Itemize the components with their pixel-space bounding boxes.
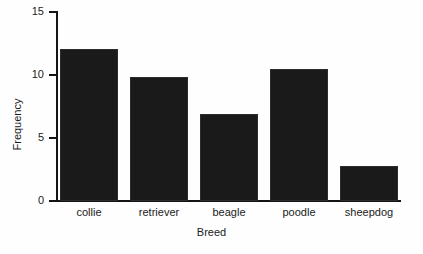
x-tick-label-beagle: beagle — [189, 206, 269, 219]
bar-chart-figure: Frequency 15 10 5 0 collie retriever bea… — [0, 0, 423, 254]
bar-beagle — [200, 114, 258, 201]
y-tick-label-15: 15 — [4, 6, 44, 17]
x-axis-title: Breed — [0, 226, 423, 239]
bar-sheepdog — [340, 166, 398, 201]
x-tick-label-poodle: poodle — [259, 206, 339, 219]
y-tick-label-10: 10 — [4, 69, 44, 80]
bar-poodle — [270, 69, 328, 201]
bar-retriever — [130, 77, 188, 201]
y-axis-title: Frequency — [11, 80, 24, 170]
x-tick-label-retriever: retriever — [119, 206, 199, 219]
plot-area: Frequency 15 10 5 0 collie retriever bea… — [0, 0, 423, 254]
x-tick-label-collie: collie — [49, 206, 129, 219]
y-tick-label-0: 0 — [4, 195, 44, 206]
bar-collie — [60, 49, 118, 201]
x-tick-label-sheepdog: sheepdog — [329, 206, 409, 219]
y-axis-line — [56, 11, 58, 202]
y-tick-label-5: 5 — [4, 132, 44, 143]
